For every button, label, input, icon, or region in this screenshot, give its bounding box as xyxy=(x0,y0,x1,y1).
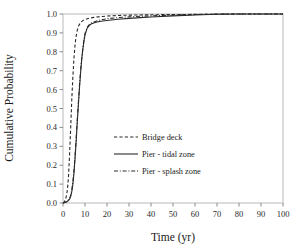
y-tick-label: 0.9 xyxy=(46,28,57,38)
y-axis-title: Cumulative Probability xyxy=(3,54,16,162)
legend-label-bridge-deck: Bridge deck xyxy=(142,133,183,142)
chart-figure: 0102030405060708090100 0.00.10.20.30.40.… xyxy=(0,0,296,250)
y-tick-label: 0.2 xyxy=(46,160,57,170)
y-tick-label: 0.4 xyxy=(46,122,57,132)
y-tick-label: 0.7 xyxy=(46,66,57,76)
x-tick-label: 10 xyxy=(81,209,90,219)
x-axis-ticks xyxy=(63,203,283,207)
x-axis-tick-labels: 0102030405060708090100 xyxy=(61,209,290,219)
cumulative-probability-line-chart: 0102030405060708090100 0.00.10.20.30.40.… xyxy=(0,0,296,250)
y-tick-label: 0.6 xyxy=(46,85,57,95)
y-tick-label: 0.1 xyxy=(46,179,57,189)
x-tick-label: 40 xyxy=(147,209,156,219)
legend-label-pier-splash-zone: Pier - splash zone xyxy=(142,167,201,176)
y-tick-label: 0.0 xyxy=(46,198,57,208)
legend-label-pier-tidal-zone: Pier - tidal zone xyxy=(142,150,195,159)
x-tick-label: 70 xyxy=(213,209,222,219)
y-tick-label: 0.3 xyxy=(46,141,57,151)
y-tick-label: 1.0 xyxy=(46,9,57,19)
x-tick-label: 20 xyxy=(103,209,112,219)
x-tick-label: 100 xyxy=(277,209,290,219)
x-tick-label: 30 xyxy=(125,209,134,219)
x-axis-title: Time (yr) xyxy=(151,231,195,244)
x-tick-label: 80 xyxy=(235,209,244,219)
x-tick-label: 50 xyxy=(169,209,178,219)
y-axis-ticks xyxy=(60,14,64,203)
x-tick-label: 0 xyxy=(61,209,65,219)
y-axis-tick-labels: 0.00.10.20.30.40.50.60.70.80.91.0 xyxy=(46,9,57,208)
y-tick-label: 0.5 xyxy=(46,104,57,114)
x-tick-label: 60 xyxy=(191,209,200,219)
y-tick-label: 0.8 xyxy=(46,47,57,57)
x-tick-label: 90 xyxy=(257,209,266,219)
